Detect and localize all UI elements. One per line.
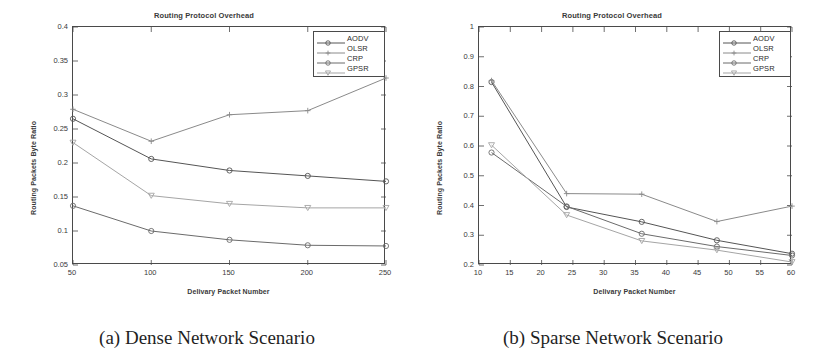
x-axis-label-a: Delivary Packet Number	[72, 288, 385, 295]
legend-swatch-circle-icon	[722, 34, 752, 44]
legend-swatch-circle-icon	[316, 54, 346, 64]
x-axis-label-b: Delivary Packet Number	[478, 288, 791, 295]
chart-title-b: Routing Protocol Overhead	[408, 11, 816, 20]
x-tick-label: 35	[630, 268, 638, 277]
legend-entry-aodv[interactable]: AODV	[316, 34, 382, 44]
x-tick-label: 20	[536, 268, 544, 277]
x-tick-label: 55	[756, 268, 764, 277]
x-tick-label: 50	[724, 268, 732, 277]
legend-entry-olsr[interactable]: OLSR	[722, 44, 788, 54]
x-tick-label: 25	[568, 268, 576, 277]
legend-swatch-triangle-down-icon	[722, 64, 752, 74]
chart-area-a: Routing Protocol Overhead Routing Packet…	[0, 0, 408, 300]
y-tick-label: 0.1	[34, 226, 68, 235]
legend-entry-gpsr[interactable]: GPSR	[722, 64, 788, 74]
data-point-marker-plus	[489, 78, 495, 84]
figure-panel-b: Routing Protocol Overhead Routing Packet…	[408, 0, 816, 355]
y-tick-label: 0.2	[34, 158, 68, 167]
data-point-marker-plus	[789, 203, 795, 209]
y-tick-label: 0.3	[440, 230, 474, 239]
data-point-marker-plus	[148, 138, 154, 144]
data-point-marker-plus	[564, 191, 570, 197]
y-tick-label: 0.4	[34, 22, 68, 31]
data-point-marker-plus	[714, 219, 720, 225]
series-line-aodv	[492, 82, 792, 254]
x-tick-label: 200	[300, 268, 313, 277]
legend-label: CRP	[753, 54, 769, 64]
series-line-olsr	[492, 81, 792, 222]
legend-label: AODV	[347, 34, 369, 44]
x-tick-label: 10	[474, 268, 482, 277]
x-tick-label: 40	[662, 268, 670, 277]
series-line-gpsr	[73, 143, 386, 208]
legend-label: OLSR	[347, 44, 368, 54]
legend-label: OLSR	[753, 44, 774, 54]
legend-swatch-plus-icon	[316, 44, 346, 54]
x-tick-label: 45	[693, 268, 701, 277]
y-tick-label: 0.15	[34, 192, 68, 201]
legend-entry-aodv[interactable]: AODV	[722, 34, 788, 44]
legend-label: GPSR	[753, 64, 775, 74]
legend-label: GPSR	[347, 64, 369, 74]
y-tick-label: 0.7	[440, 111, 474, 120]
figure-panel-a: Routing Protocol Overhead Routing Packet…	[0, 0, 408, 355]
chart-title-a: Routing Protocol Overhead	[0, 11, 408, 20]
x-tick-label: 30	[599, 268, 607, 277]
x-tick-label: 100	[144, 268, 157, 277]
data-point-marker-plus	[639, 191, 645, 197]
y-tick-label: 0.8	[440, 81, 474, 90]
y-tick-label: 0.6	[440, 141, 474, 150]
y-tick-label: 0.25	[34, 124, 68, 133]
legend-swatch-triangle-down-icon	[316, 64, 346, 74]
legend-entry-crp[interactable]: CRP	[316, 54, 382, 64]
y-tick-label: 0.05	[34, 260, 68, 269]
legend-entry-gpsr[interactable]: GPSR	[316, 64, 382, 74]
y-tick-label: 0.5	[440, 170, 474, 179]
y-tick-label: 1	[440, 22, 474, 31]
legend-b: AODVOLSRCRPGPSR	[719, 31, 791, 77]
figure-caption-a: (a) Dense Network Scenario	[0, 327, 408, 349]
series-line-crp	[492, 153, 792, 256]
y-tick-label: 0.9	[440, 51, 474, 60]
legend-label: CRP	[347, 54, 363, 64]
legend-a: AODVOLSRCRPGPSR	[313, 31, 385, 77]
x-tick-label: 60	[787, 268, 795, 277]
legend-entry-olsr[interactable]: OLSR	[316, 44, 382, 54]
data-point-marker-plus	[70, 106, 76, 112]
legend-entry-crp[interactable]: CRP	[722, 54, 788, 64]
figure-row: Routing Protocol Overhead Routing Packet…	[0, 0, 816, 355]
x-tick-label: 15	[505, 268, 513, 277]
series-line-olsr	[73, 78, 386, 141]
x-tick-label: 250	[379, 268, 392, 277]
y-tick-label: 0.2	[440, 260, 474, 269]
legend-swatch-circle-icon	[316, 34, 346, 44]
data-point-marker-plus	[227, 112, 233, 118]
x-tick-label: 150	[222, 268, 235, 277]
y-tick-label: 0.4	[440, 200, 474, 209]
chart-area-b: Routing Protocol Overhead Routing Packet…	[408, 0, 816, 300]
series-line-crp	[73, 206, 386, 246]
legend-label: AODV	[753, 34, 775, 44]
figure-caption-b: (b) Sparse Network Scenario	[408, 327, 816, 349]
y-axis-label-a: Routing Packets Byte Ratio	[30, 121, 37, 215]
x-tick-label: 50	[68, 268, 76, 277]
legend-swatch-plus-icon	[722, 44, 752, 54]
y-tick-label: 0.35	[34, 56, 68, 65]
data-point-marker-plus	[305, 108, 311, 114]
y-tick-label: 0.3	[34, 90, 68, 99]
legend-swatch-circle-icon	[722, 54, 752, 64]
